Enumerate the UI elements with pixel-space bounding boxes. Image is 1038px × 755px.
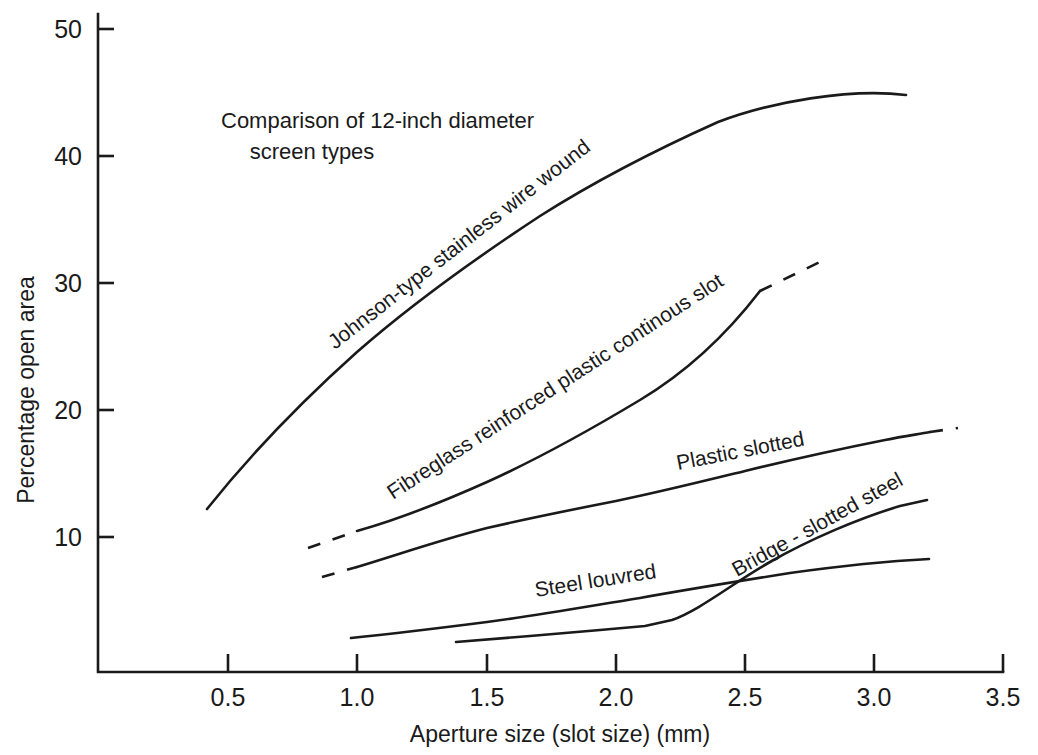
plot-title-line-1: Comparison of 12-inch diameter [221,108,534,133]
y-axis-title: Percentage open area [13,276,39,504]
x-tick-label-1.0: 1.0 [340,683,375,711]
plot-title: Comparison of 12-inch diameter screen ty… [221,108,534,164]
y-tick-label-20: 20 [54,396,82,424]
chart-container: 50 40 30 20 10 0.5 1.0 1.5 2.0 2.5 3.0 3… [0,0,1038,755]
y-tick-label-50: 50 [54,15,82,43]
x-axis-title: Aperture size (slot size) (mm) [410,721,710,747]
y-axis-tick-labels: 50 40 30 20 10 [54,15,82,551]
series-label-johnson-type-stainless-wire-wound: Johnson-type stainless wire wound [323,135,594,354]
curve-fibreglass-dashed-right [760,261,822,291]
x-axis-tick-labels: 0.5 1.0 1.5 2.0 2.5 3.0 3.5 [211,683,1021,711]
x-tick-label-2.5: 2.5 [728,683,763,711]
series-label-steel-louvred: Steel louvred [533,559,658,601]
curve-bridge-slotted-steel [456,500,927,642]
chart-canvas: 50 40 30 20 10 0.5 1.0 1.5 2.0 2.5 3.0 3… [0,0,1038,755]
curve-plastic-slotted-dashed-left [322,567,357,577]
x-tick-label-2.0: 2.0 [599,683,634,711]
curve-fibreglass-dashed-left [308,531,357,548]
series-label-plastic-slotted: Plastic slotted [674,427,806,474]
y-axis-ticks [98,29,114,537]
x-axis-ticks [228,654,1003,672]
x-tick-label-1.5: 1.5 [470,683,505,711]
curve-plastic-slotted-dashed-right [930,428,958,432]
curve-fibreglass-reinforced-plastic-continous-slot [357,291,760,531]
y-tick-label-40: 40 [54,142,82,170]
x-tick-label-3.5: 3.5 [986,683,1021,711]
x-tick-label-3.0: 3.0 [857,683,892,711]
plot-title-line-2: screen types [250,139,375,164]
x-tick-label-0.5: 0.5 [211,683,246,711]
y-tick-label-30: 30 [54,269,82,297]
y-tick-label-10: 10 [54,523,82,551]
series-label-fibreglass-reinforced-plastic-continous-slot: Fibreglass reinforced plastic continous … [383,268,728,503]
